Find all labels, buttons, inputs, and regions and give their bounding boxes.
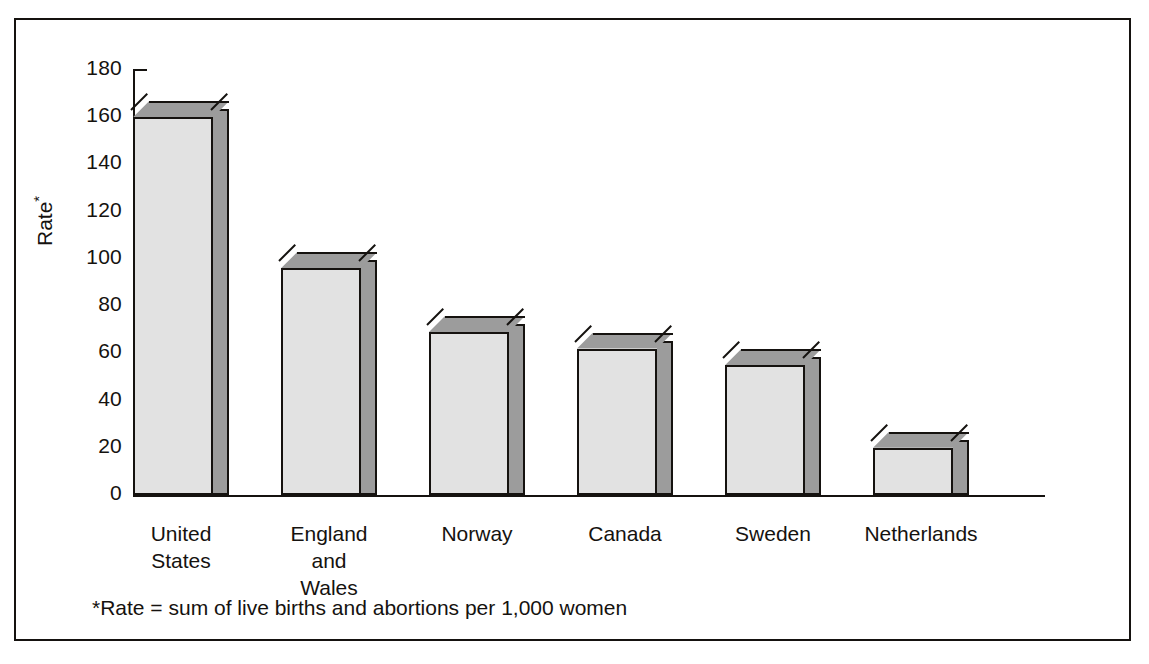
bar-side-face [213,109,229,495]
bar-side-face [509,324,525,495]
bar-front-face [725,365,805,495]
bar-front-face [133,117,213,495]
x-axis-baseline [133,495,1045,497]
bar [577,333,673,495]
y-axis-tick-label: 140 [60,150,122,174]
plot-area: Rate* 180160140120100806040200 United St… [0,0,1149,664]
bar-front-face [873,448,953,495]
x-axis-category-label: Netherlands [821,520,1021,547]
bar [281,252,377,495]
y-axis-tick-label: 180 [60,56,122,80]
bar [429,316,525,495]
y-axis-title-superscript: * [30,196,47,202]
y-axis-title: Rate* [30,196,57,246]
y-axis-tick-label: 120 [60,198,122,222]
footnote: *Rate = sum of live births and abortions… [92,596,627,620]
bar [133,101,229,495]
bar-side-face [361,260,377,495]
y-axis-tick-label: 160 [60,103,122,127]
y-axis-tick-label: 20 [60,434,122,458]
bar-side-face [953,440,969,495]
bar-side-face [657,341,673,495]
y-axis-tick-label: 0 [60,481,122,505]
bar-front-face [281,268,361,495]
y-axis-tick-label: 40 [60,387,122,411]
bar-front-face [577,349,657,495]
y-axis-tick-label: 60 [60,339,122,363]
bar [725,349,821,495]
y-axis-title-text: Rate [33,202,56,246]
y-axis-tick-label: 80 [60,292,122,316]
y-axis-tick [133,69,147,71]
bar-side-face [805,357,821,495]
bar [873,432,969,495]
y-axis-tick-label: 100 [60,245,122,269]
chart-figure: Rate* 180160140120100806040200 United St… [0,0,1149,664]
bar-front-face [429,332,509,495]
